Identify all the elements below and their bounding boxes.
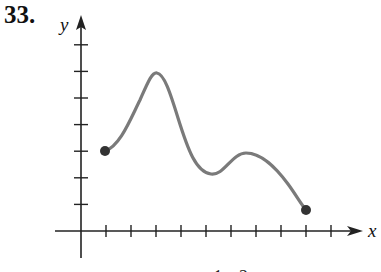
end-point — [301, 205, 311, 215]
start-point — [100, 146, 110, 156]
function-graph: y x — [0, 0, 381, 272]
function-curve — [105, 73, 306, 210]
x-axis-label: x — [367, 220, 377, 241]
y-axis — [74, 15, 88, 258]
caption-fragment: x 1 2 — [188, 262, 254, 272]
x-axis — [55, 225, 363, 237]
y-axis-label: y — [58, 14, 69, 35]
